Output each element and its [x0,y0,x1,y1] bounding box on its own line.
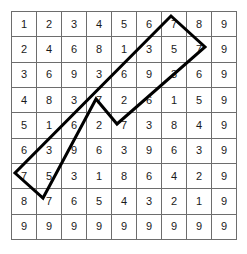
table-cell: 5 [162,37,187,62]
table-cell: 2 [162,189,187,214]
table-cell: 4 [112,189,137,214]
table-cell: 3 [37,139,62,164]
table-cell: 5 [87,189,112,214]
table-cell: 2 [187,164,212,189]
table-cell: 1 [112,37,137,62]
table-cell: 2 [87,113,112,138]
table-cell: 7 [112,113,137,138]
table-cell: 6 [162,139,187,164]
table-cell: 4 [162,164,187,189]
table-cell: 9 [212,12,237,37]
table-cell: 4 [187,113,212,138]
table-cell: 6 [62,189,87,214]
table-cell: 8 [187,12,212,37]
table-cell: 3 [162,63,187,88]
table-cell: 1 [37,113,62,138]
table-cell: 6 [137,12,162,37]
table-cell: 9 [87,215,112,240]
table-cell: 3 [12,63,37,88]
table-cell: 7 [87,88,112,113]
table-cell: 9 [137,139,162,164]
table-cell: 6 [112,63,137,88]
table-cell: 3 [137,37,162,62]
table-cell: 9 [187,215,212,240]
table-cell: 3 [62,88,87,113]
table-cell: 3 [62,12,87,37]
table-cell: 9 [112,215,137,240]
table-cell: 9 [62,139,87,164]
table-cell: 8 [112,164,137,189]
table-cell: 6 [12,139,37,164]
table-cell: 6 [62,113,87,138]
table-cell: 3 [137,113,162,138]
table-cell: 4 [37,37,62,62]
table-cell: 9 [212,88,237,113]
table-cell: 1 [162,88,187,113]
table-cell: 3 [112,139,137,164]
table-cell: 9 [62,63,87,88]
table-cell: 8 [87,37,112,62]
table-cell: 8 [37,88,62,113]
table-cell: 8 [12,189,37,214]
table-cell: 3 [87,63,112,88]
table-cell: 2 [12,37,37,62]
table-cell: 9 [212,63,237,88]
table-cell: 9 [137,215,162,240]
table-cell: 1 [87,164,112,189]
table-cell: 6 [87,139,112,164]
table-cell: 9 [137,63,162,88]
table-cell: 5 [112,12,137,37]
table-cell: 6 [137,88,162,113]
table-cell: 1 [187,189,212,214]
table-cell: 5 [187,88,212,113]
table-cell: 7 [37,189,62,214]
table-cell: 9 [212,215,237,240]
table-cell: 8 [162,113,187,138]
table-cell: 2 [37,12,62,37]
table-cell: 9 [37,215,62,240]
table-cell: 9 [212,113,237,138]
table-cell: 3 [187,139,212,164]
table-cell: 6 [37,63,62,88]
table-cell: 5 [37,164,62,189]
table-cell: 6 [187,63,212,88]
table-cell: 1 [12,12,37,37]
table-cell: 5 [12,113,37,138]
table-cell: 6 [137,164,162,189]
table-cell: 7 [12,164,37,189]
table-cell: 9 [12,215,37,240]
table-cell: 4 [87,12,112,37]
table-cell: 9 [212,139,237,164]
table-cell: 9 [62,215,87,240]
multiplication-grid: 1234567892468135793693693694837261595162… [11,11,237,240]
table-cell: 9 [212,164,237,189]
table-cell: 3 [137,189,162,214]
table-cell: 9 [212,37,237,62]
figure-canvas: 1234567892468135793693693694837261595162… [0,0,247,254]
table-cell: 2 [112,88,137,113]
table-cell: 4 [12,88,37,113]
table-cell: 9 [212,189,237,214]
table-cell: 3 [62,164,87,189]
table-cell: 7 [187,37,212,62]
table-cell: 9 [162,215,187,240]
table-cell: 7 [162,12,187,37]
table-cell: 6 [62,37,87,62]
